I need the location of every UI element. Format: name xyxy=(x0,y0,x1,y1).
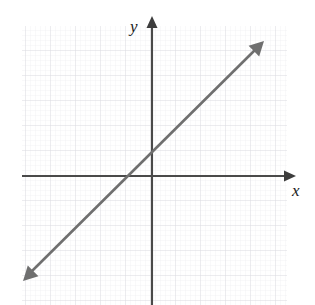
x-axis-arrowhead xyxy=(284,171,296,182)
x-axis-label: x xyxy=(292,182,300,199)
coordinate-plane-svg xyxy=(0,0,315,305)
graph-figure: y x xyxy=(0,0,315,305)
y-axis-arrowhead xyxy=(147,16,158,28)
y-axis-label: y xyxy=(130,18,138,35)
grid-lines xyxy=(22,26,287,305)
